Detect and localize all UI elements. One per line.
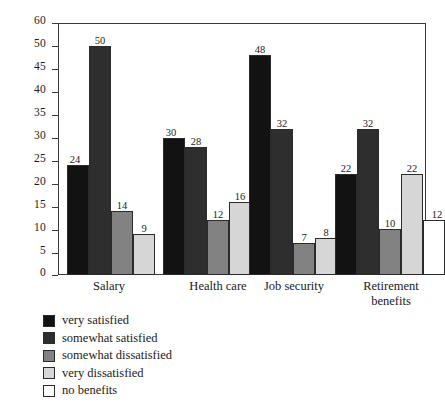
legend-item-somewhat-satisfied: somewhat satisfied (43, 330, 293, 348)
legend-label: no benefits (62, 384, 117, 397)
legend-item-somewhat-dissatisfied: somewhat dissatisfied (43, 347, 293, 365)
x-axis-label-retirement-benefits: Retirement benefits (337, 279, 445, 309)
y-axis-tick-label: 0 (40, 267, 46, 278)
bar-salary-very-dissatisfied: 9 (133, 234, 155, 275)
legend-label: somewhat dissatisfied (62, 349, 172, 362)
bar-value-label: 32 (363, 118, 374, 129)
y-axis-tick-label: 10 (34, 222, 46, 233)
y-axis: 60 50 45 40 35 30 25 20 (0, 0, 58, 276)
bar-health-care-very-dissatisfied: 16 (229, 202, 251, 275)
y-axis-tick-label: 45 (34, 61, 46, 72)
y-axis-tick-label: 60 (34, 15, 46, 26)
legend-label: very dissatisfied (62, 367, 144, 380)
bar-value-label: 7 (301, 232, 306, 243)
bar-health-care-somewhat-dissatisfied: 12 (207, 220, 229, 275)
y-axis-tick-label: 50 (34, 38, 46, 49)
bar-value-label: 8 (323, 227, 328, 238)
legend-item-very-satisfied: very satisfied (43, 312, 293, 330)
bar-value-label: 50 (95, 35, 106, 46)
y-axis-tick-15: 15 (0, 207, 58, 208)
y-axis-tick-40: 40 (0, 92, 58, 93)
bar-value-label: 30 (166, 127, 177, 138)
y-axis-tick-0: 0 (0, 275, 58, 276)
bar-group-job-security: 48 32 7 8 (249, 24, 337, 275)
bar-retirement-benefits-very-satisfied: 22 (335, 174, 357, 275)
bar-job-security-somewhat-dissatisfied: 7 (293, 243, 315, 275)
bar-retirement-benefits-very-dissatisfied: 22 (401, 174, 423, 275)
bar-salary-very-satisfied: 24 (67, 165, 89, 275)
bar-retirement-benefits-somewhat-satisfied: 32 (357, 129, 379, 275)
bar-value-label: 22 (341, 163, 352, 174)
bar-value-label: 22 (407, 163, 418, 174)
legend-swatch-icon (43, 350, 55, 362)
bars-layer: 24 50 14 9 30 28 12 16 (59, 24, 425, 275)
bar-job-security-somewhat-satisfied: 32 (271, 129, 293, 275)
y-axis-tick-label: 25 (34, 153, 46, 164)
y-axis-tick-30: 30 (0, 138, 58, 139)
legend-swatch-icon (43, 332, 55, 344)
legend-item-no-benefits: no benefits (43, 382, 293, 400)
y-axis-tick-20: 20 (0, 184, 58, 185)
y-axis-tick-25: 25 (0, 161, 58, 162)
y-axis-tick-50: 50 (0, 46, 58, 47)
legend-item-very-dissatisfied: very dissatisfied (43, 365, 293, 383)
legend-swatch-icon (43, 315, 55, 327)
bar-value-label: 14 (117, 200, 128, 211)
legend-label: somewhat satisfied (62, 332, 157, 345)
legend-swatch-icon (43, 367, 55, 379)
x-axis-label-job-security: Job security (244, 279, 344, 294)
bar-retirement-benefits-no-benefits: 12 (423, 220, 445, 275)
bar-group-salary: 24 50 14 9 (67, 24, 151, 275)
bar-value-label: 28 (191, 136, 202, 147)
legend-swatch-icon (43, 385, 55, 397)
bar-value-label: 32 (277, 118, 288, 129)
y-axis-tick-label: 20 (34, 176, 46, 187)
legend: very satisfied somewhat satisfied somewh… (43, 312, 293, 400)
bar-value-label: 12 (213, 209, 224, 220)
bar-salary-somewhat-satisfied: 50 (89, 46, 111, 275)
bar-value-label: 9 (141, 223, 146, 234)
bar-retirement-benefits-somewhat-dissatisfied: 10 (379, 229, 401, 275)
bar-value-label: 10 (385, 218, 396, 229)
y-axis-tick-mark (52, 275, 58, 276)
y-axis-tick-10: 10 (0, 230, 58, 231)
y-axis-tick-45: 45 (0, 69, 58, 70)
bar-health-care-very-satisfied: 30 (163, 138, 185, 275)
y-axis-tick-label: 30 (34, 130, 46, 141)
bar-job-security-very-dissatisfied: 8 (315, 238, 337, 275)
y-axis-tick-label: 40 (34, 84, 46, 95)
x-axis-label-salary: Salary (59, 279, 159, 294)
legend-label: very satisfied (62, 314, 129, 327)
bar-value-label: 48 (255, 44, 266, 55)
y-axis-tick-label: 35 (34, 107, 46, 118)
bar-salary-somewhat-dissatisfied: 14 (111, 211, 133, 275)
y-axis-tick-label: 15 (34, 199, 46, 210)
y-axis-tick-35: 35 (0, 115, 58, 116)
bar-job-security-very-satisfied: 48 (249, 55, 271, 275)
y-axis-tick-5: 5 (0, 253, 58, 254)
bar-value-label: 12 (432, 209, 443, 220)
y-axis-tick-label: 5 (40, 245, 46, 256)
bar-health-care-somewhat-satisfied: 28 (185, 147, 207, 275)
bar-value-label: 16 (235, 191, 246, 202)
bar-value-label: 24 (70, 154, 81, 165)
y-axis-tick-60: 60 (0, 23, 58, 24)
bar-group-retirement-benefits: 22 32 10 22 12 (335, 24, 445, 275)
